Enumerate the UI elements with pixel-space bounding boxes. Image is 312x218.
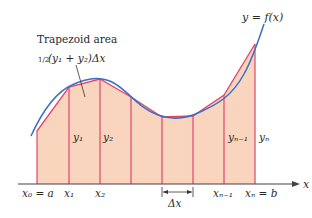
trapezoid-rule-diagram: x y = f(x) Trapezoid area 1/2 (y₁ + y₂)Δ…	[0, 0, 312, 218]
x-axis-arrow-icon	[292, 181, 300, 187]
xn-label: xₙ = b	[245, 187, 278, 199]
curve-label: y = f(x)	[241, 11, 283, 24]
annotation-formula: (y₁ + y₂)Δx	[48, 52, 106, 64]
y2-label: y₂	[102, 131, 113, 143]
delta-x-left-arrow-icon	[163, 190, 168, 194]
yn-label: yₙ	[258, 131, 269, 143]
delta-x-label: Δx	[167, 197, 182, 209]
delta-x-right-arrow-icon	[187, 190, 192, 194]
yn-1-label: yₙ₋₁	[227, 131, 248, 143]
x0-label: x₀ = a	[22, 187, 54, 199]
annotation-title: Trapezoid area	[37, 33, 117, 45]
x1-label: x₁	[64, 187, 74, 199]
y1-label: y₁	[72, 131, 83, 143]
trapezoid-fill	[37, 44, 255, 184]
x-axis-label: x	[303, 178, 310, 191]
xn-1-label: xₙ₋₁	[213, 187, 233, 199]
x2-label: x₂	[95, 187, 105, 199]
